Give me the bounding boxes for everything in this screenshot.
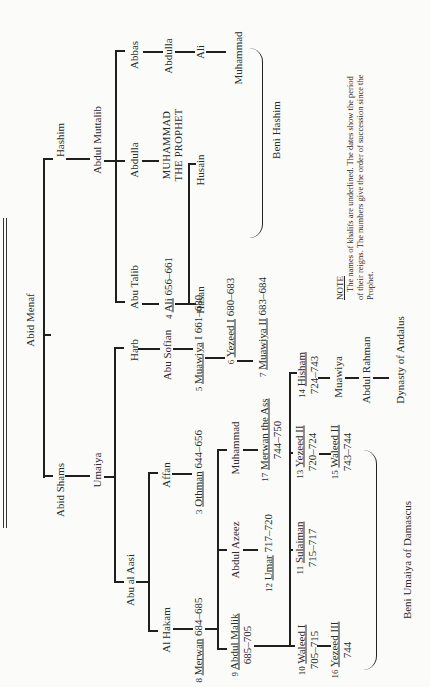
abdul-malik-dates: 685–705 xyxy=(241,613,253,676)
node-muhammad-abbasid: Muhammad xyxy=(232,31,244,84)
node-othman: 3 Othman 644–656 xyxy=(192,430,205,514)
node-affan: Affan xyxy=(160,462,172,487)
link-muawiya-yezeed xyxy=(205,357,225,359)
link-muhammad-umaiyad xyxy=(217,449,227,451)
muawiya1-order: 5 xyxy=(194,387,204,392)
yezeed2-order: 13 xyxy=(295,470,305,479)
node-waleed-2: 15 Waleed II 743–744 xyxy=(328,425,353,479)
link-harb xyxy=(114,347,124,349)
brace-beni-hashim xyxy=(248,48,263,238)
abdul-malik-order: 9 xyxy=(230,672,240,677)
node-merwan: 8 Merwan 684–685 xyxy=(192,597,205,682)
node-umaiya: Umaiya xyxy=(91,453,103,488)
node-abdul-rahman: Abdul Rahman xyxy=(360,337,372,404)
node-merwan-the-ass: 17 Merwan the Ass 744–750 xyxy=(258,398,283,481)
umar-name: Umar xyxy=(262,555,274,580)
node-abu-al-aasi: Abu al Aasi xyxy=(124,554,136,606)
merwan-dates: 684–685 xyxy=(192,597,204,636)
yezeed2-dates: 720–724 xyxy=(306,425,318,478)
node-abdul-muttalib: Abdul Muttalib xyxy=(91,106,103,174)
node-abdulla: Abdulla xyxy=(128,142,140,177)
node-sulaiman: 11 Sulaiman 715–717 xyxy=(293,522,318,575)
node-yezeed-2: 13 Yezeed II 720–724 xyxy=(293,425,318,478)
yezeed1-dates: 680–683 xyxy=(224,278,236,317)
link-affan-othman xyxy=(172,473,192,475)
umar-order: 12 xyxy=(264,583,274,592)
waleed1-name: Waleed I xyxy=(295,625,307,664)
double-rule-right xyxy=(6,218,7,528)
link-azeez-umar xyxy=(243,549,258,551)
node-al-hakam: Al Hakam xyxy=(160,607,172,653)
link-talib-ali xyxy=(142,303,159,305)
node-abdulla-abbas: Abdulla xyxy=(162,38,174,73)
node-muawiya-2: 7 Muawiya II 683–684 xyxy=(256,277,269,377)
link-affan xyxy=(148,472,158,474)
link-abid-shams xyxy=(43,475,53,477)
link-rahman-andalus xyxy=(373,377,389,379)
node-abid-shams: Abid Shams xyxy=(54,463,66,517)
muawiya2-dates: 683–684 xyxy=(256,277,268,316)
note-text: The names of khalifs are underlined. The… xyxy=(345,70,375,300)
note-block: NOTE The names of khalifs are underlined… xyxy=(335,70,375,300)
brace-beni-umaiya xyxy=(362,450,377,670)
yezeed3-name: Yezeed III xyxy=(328,622,340,668)
node-abu-sofian: Abu Sofian xyxy=(161,330,173,380)
node-abu-talib: Abu Talib xyxy=(128,265,140,309)
link-abbas xyxy=(115,50,125,52)
waleed1-order: 10 xyxy=(297,666,307,675)
trunk-umaiya xyxy=(114,347,116,582)
waleed2-dates: 743–744 xyxy=(341,425,353,479)
node-muawiya-1: 5 Muawiya I 661–680 xyxy=(192,295,205,391)
othman-name: Othman xyxy=(192,471,204,506)
link-abu-al-aasi xyxy=(114,581,124,583)
prophet-line-1: MUHAMMAD xyxy=(161,108,173,181)
double-rule-left xyxy=(3,218,4,528)
merwan2-name: Merwan the Ass xyxy=(258,398,270,470)
note-title: NOTE xyxy=(335,70,345,300)
node-yezeed-3: 16 Yezeed III 744 xyxy=(328,622,353,679)
yezeed2-name: Yezeed II xyxy=(293,425,305,467)
merwan2-dates: 744–750 xyxy=(271,398,283,481)
waleed2-name: Waleed II xyxy=(328,425,340,468)
hisham-dates: 724–743 xyxy=(308,352,320,398)
link-malik-sons xyxy=(254,645,290,647)
node-waleed-1: 10 Waleed I 705–715 xyxy=(295,625,320,676)
link-hisham-muawiya xyxy=(318,377,330,379)
muawiya2-name: Muawiya II xyxy=(256,318,268,370)
group-beni-hashim: Beni Hashim xyxy=(270,101,282,159)
hisham-order: 14 xyxy=(297,389,307,398)
node-abbas: Abbas xyxy=(128,41,140,69)
merwan-order: 8 xyxy=(194,678,204,683)
ali-dates: 656–661 xyxy=(162,257,174,296)
link-abu-talib xyxy=(115,301,125,303)
node-harb: Harb xyxy=(128,339,140,361)
node-ali-abbasid: Ali xyxy=(194,45,206,59)
node-abdul-malik: 9 Abdul Malik 685–705 xyxy=(228,613,253,676)
hisham-name: Hisham xyxy=(295,352,307,386)
link-hakam-merwan xyxy=(173,628,193,630)
link-harb-sofian xyxy=(138,348,160,350)
link-abdulla-prophet xyxy=(142,160,159,162)
link-abdulla xyxy=(115,160,125,162)
link-ali-muhammad xyxy=(206,51,226,53)
muawiya1-name: Muawiya xyxy=(192,342,204,384)
trunk-aasi xyxy=(148,472,150,632)
yezeed1-order: 6 xyxy=(226,360,236,365)
group-beni-umaiya: Beni Umaiya of Damascus xyxy=(401,501,413,619)
node-umar: 12 Umar 717–720 xyxy=(262,514,275,592)
node-muawiya-andalus: Muawiya xyxy=(332,356,344,398)
group-dynasty-andalus: Dynasty of Andalus xyxy=(394,316,406,403)
othman-dates: 644–656 xyxy=(192,430,204,469)
sulaiman-dates: 715–717 xyxy=(306,522,318,575)
link-muhammad-merwan2 xyxy=(243,449,258,451)
abdul-malik-name: Abdul Malik xyxy=(228,613,240,670)
link-hashim xyxy=(43,158,53,160)
ali-name: Ali xyxy=(162,298,174,312)
muawiya2-order: 7 xyxy=(258,373,268,378)
umar-dates: 717–720 xyxy=(262,514,274,553)
link-al-hakam xyxy=(148,630,158,632)
node-husain: Husain xyxy=(194,154,206,185)
yezeed1-name: Yezeed I xyxy=(224,319,236,357)
link-abdul-azeez xyxy=(217,549,227,551)
trunk-muttalib xyxy=(115,50,117,302)
